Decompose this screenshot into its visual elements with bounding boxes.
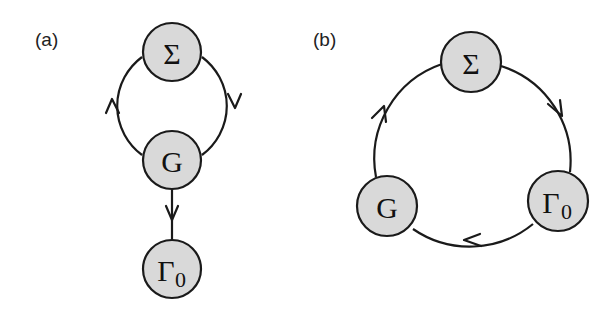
node-gamma-subscript: 0 bbox=[561, 199, 572, 224]
panel-b: (b) Σ G Γ 0 bbox=[313, 29, 588, 247]
panel-b-edge-sigma-to-gamma0 bbox=[501, 66, 571, 172]
panel-b-node-g: G bbox=[357, 176, 417, 236]
panel-a-arrow-down-icon bbox=[228, 94, 241, 108]
panel-b-arrow-left-icon bbox=[464, 234, 481, 246]
panel-b-node-sigma: Σ bbox=[441, 32, 501, 92]
panel-b-edge-g-to-sigma bbox=[374, 64, 442, 177]
panel-a: (a) Σ G Γ 0 bbox=[35, 23, 241, 298]
panel-a-label: (a) bbox=[35, 29, 58, 50]
panel-b-node-gamma0: Γ 0 bbox=[528, 171, 588, 231]
node-g-symbol: G bbox=[161, 145, 183, 178]
panel-b-arrow-up-icon bbox=[372, 106, 386, 122]
node-sigma-symbol: Σ bbox=[462, 47, 479, 80]
node-g-symbol: G bbox=[376, 191, 398, 224]
panel-a-edge-g-to-sigma bbox=[117, 57, 142, 155]
panel-a-node-sigma: Σ bbox=[143, 23, 201, 81]
diagram-canvas: (a) Σ G Γ 0 (b) bbox=[0, 0, 613, 315]
node-gamma-subscript: 0 bbox=[175, 267, 186, 292]
panel-b-label: (b) bbox=[313, 29, 336, 50]
node-gamma-symbol: Γ bbox=[542, 186, 559, 219]
node-sigma-symbol: Σ bbox=[163, 37, 180, 70]
node-gamma-symbol: Γ bbox=[157, 254, 174, 287]
panel-a-node-gamma0: Γ 0 bbox=[143, 240, 201, 298]
panel-a-edge-sigma-to-g bbox=[202, 57, 227, 155]
panel-a-node-g: G bbox=[143, 131, 201, 189]
